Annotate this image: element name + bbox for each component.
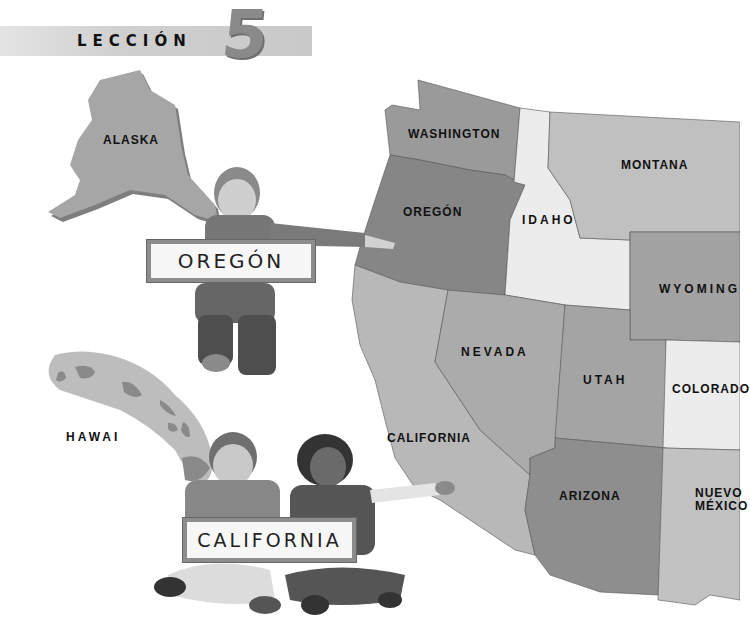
state-label-new-mexico: NUEVO MÉXICO <box>695 487 748 513</box>
new-mexico-line2: MÉXICO <box>695 500 748 513</box>
state-label-alaska: ALASKA <box>103 133 159 147</box>
state-label-hawaii: HAWAI <box>66 430 120 444</box>
state-label-washington: WASHINGTON <box>408 127 500 141</box>
montana-shape <box>548 112 740 240</box>
state-label-nevada: NEVADA <box>461 345 529 359</box>
state-label-arizona: ARIZONA <box>559 489 621 503</box>
state-label-oregon: OREGÓN <box>403 205 462 219</box>
state-label-wyoming: WYOMING <box>659 282 740 296</box>
state-label-colorado: COLORADO <box>672 382 750 396</box>
state-label-utah: UTAH <box>583 373 627 387</box>
new-mexico-shape <box>658 448 740 605</box>
state-label-idaho: IDAHO <box>522 213 576 227</box>
oregon-sign: OREGÓN <box>147 240 315 282</box>
arizona-shape <box>525 438 666 595</box>
california-sign: CALIFORNIA <box>183 518 356 562</box>
state-label-montana: MONTANA <box>621 158 688 172</box>
